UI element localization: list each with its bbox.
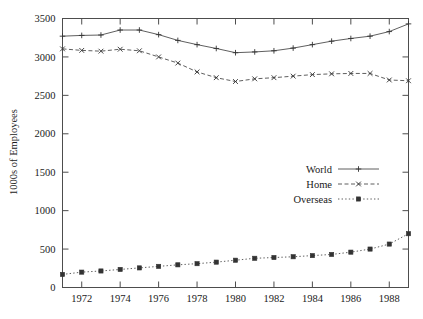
y-tick-label: 0 xyxy=(50,282,55,293)
x-tick-label: 1988 xyxy=(379,293,400,304)
x-tick-label: 1986 xyxy=(340,293,361,304)
x-tick-label: 1974 xyxy=(110,293,132,304)
x-tick-label: 1984 xyxy=(302,293,324,304)
legend-label-home: Home xyxy=(306,179,332,190)
x-axis-tick-labels: 197219741976197819801982198419861988 xyxy=(71,293,400,304)
legend-sample-marker-overseas xyxy=(356,197,360,201)
legend-label-overseas: Overseas xyxy=(294,194,332,205)
y-tick-label: 3000 xyxy=(35,52,56,63)
legend-label-world: World xyxy=(306,164,333,175)
employees-line-chart: 0500100015002000250030003500 19721974197… xyxy=(0,0,423,319)
x-tick-label: 1982 xyxy=(263,293,284,304)
x-tick-label: 1978 xyxy=(187,293,208,304)
x-tick-label: 1980 xyxy=(225,293,246,304)
x-tick-label: 1972 xyxy=(71,293,92,304)
y-tick-label: 3500 xyxy=(35,13,56,24)
y-tick-label: 2000 xyxy=(35,128,56,139)
y-tick-label: 1500 xyxy=(35,167,56,178)
chart-container: 0500100015002000250030003500 19721974197… xyxy=(0,0,423,319)
y-axis-title: 1000s of Employees xyxy=(8,109,19,195)
y-tick-label: 500 xyxy=(40,244,56,255)
y-tick-label: 1000 xyxy=(35,205,56,216)
y-tick-label: 2500 xyxy=(35,90,56,101)
x-tick-label: 1976 xyxy=(148,293,169,304)
